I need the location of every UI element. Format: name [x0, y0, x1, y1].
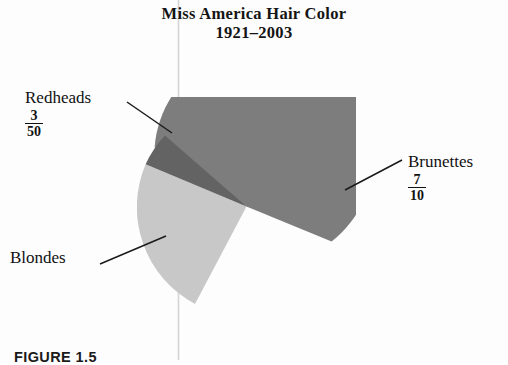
label-brunettes-name: Brunettes: [408, 152, 473, 171]
pie-chart: [137, 97, 356, 316]
label-blondes-name: Blondes: [10, 248, 66, 267]
label-redheads-numerator: 3: [25, 109, 43, 124]
figure-caption: FIGURE 1.5: [14, 349, 97, 365]
label-brunettes: Brunettes 7 10: [408, 152, 473, 204]
label-redheads: Redheads 3 50: [25, 88, 91, 140]
label-brunettes-denominator: 10: [408, 188, 426, 202]
label-blondes: Blondes: [10, 248, 66, 267]
title-line-1: Miss America Hair Color: [0, 4, 508, 23]
title-line-2: 1921–2003: [0, 23, 508, 42]
label-redheads-fraction: 3 50: [25, 109, 43, 138]
label-redheads-name: Redheads: [25, 88, 91, 107]
label-brunettes-fraction: 7 10: [408, 173, 426, 202]
label-redheads-denominator: 50: [25, 124, 43, 138]
label-brunettes-numerator: 7: [408, 173, 426, 188]
pie-svg: [137, 97, 356, 316]
chart-title: Miss America Hair Color 1921–2003: [0, 4, 508, 42]
